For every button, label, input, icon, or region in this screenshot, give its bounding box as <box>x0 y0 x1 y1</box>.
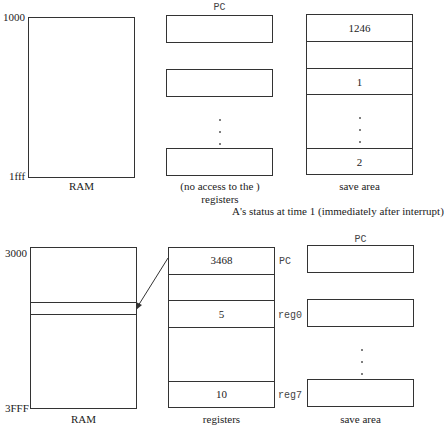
divider <box>168 300 275 301</box>
divider <box>30 302 137 303</box>
ellipsis-dot <box>359 117 361 119</box>
divider <box>168 381 275 382</box>
pc-side-label: PC <box>279 256 291 267</box>
save-cell-reg0-value: 1 <box>306 76 413 88</box>
divider <box>306 94 413 95</box>
bottom-ram-box <box>30 247 137 409</box>
top-ram-label: RAM <box>28 180 135 192</box>
status-caption: A's status at time 1 (immediately after … <box>232 205 444 217</box>
reg-pc-value: 3468 <box>168 254 275 266</box>
ellipsis-dot <box>361 373 363 375</box>
bottom-save-pc-label: PC <box>307 234 414 245</box>
bottom-save-reg7-slot <box>307 379 414 407</box>
ellipsis-dot <box>359 141 361 143</box>
divider <box>168 274 275 275</box>
save-cell-reg7-value: 2 <box>306 156 413 168</box>
bottom-ram-addr-end: 3FFF <box>5 402 29 414</box>
bottom-registers-label: registers <box>168 413 275 425</box>
reg7-value: 10 <box>168 388 275 400</box>
top-registers-label-1: (no access to the ) <box>150 180 290 192</box>
bottom-ram-addr-start: 3000 <box>5 247 27 259</box>
reg0-side-label: reg0 <box>278 310 302 321</box>
bottom-save-reg0-slot <box>307 299 414 327</box>
ellipsis-dot <box>219 119 221 121</box>
ellipsis-dot <box>361 361 363 363</box>
top-ram-addr-end: 1fff <box>9 170 25 182</box>
ellipsis-dot <box>219 143 221 145</box>
top-ram-box <box>28 17 135 178</box>
divider <box>30 314 137 315</box>
divider <box>306 41 413 42</box>
bottom-save-pc-slot <box>307 245 414 273</box>
ellipsis-dot <box>359 129 361 131</box>
save-cell-pc-value: 1246 <box>306 22 413 34</box>
reg0-value: 5 <box>168 308 275 320</box>
top-ram-addr-start: 1000 <box>3 11 25 23</box>
divider <box>306 68 413 69</box>
top-pc-register <box>166 15 273 43</box>
divider <box>306 148 413 149</box>
divider <box>168 327 275 328</box>
bottom-save-area-label: save area <box>307 413 414 425</box>
top-reg0-register <box>166 69 273 97</box>
bottom-ram-label: RAM <box>30 413 137 425</box>
reg7-side-label: reg7 <box>278 390 302 401</box>
ellipsis-dot <box>361 349 363 351</box>
top-save-area-label: save area <box>306 180 413 192</box>
top-reg7-register <box>166 148 273 176</box>
ellipsis-dot <box>219 131 221 133</box>
top-registers-label-2: registers <box>150 193 290 205</box>
top-pc-label: PC <box>166 2 273 13</box>
